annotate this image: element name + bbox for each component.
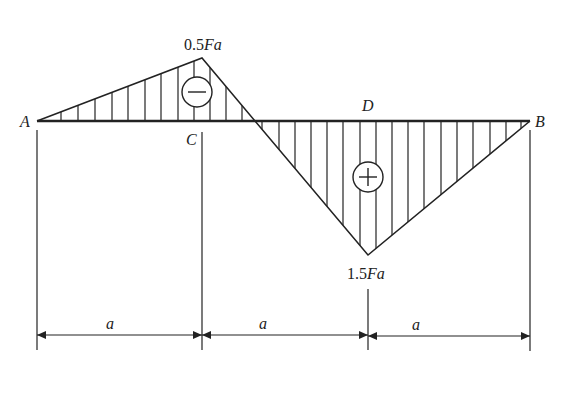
moment-diagram: A C D B 0.5Fa 1.5Fa a a a <box>0 0 561 395</box>
positive-region-hatching <box>262 120 521 260</box>
negative-region-outline <box>37 58 255 121</box>
dimension-label-3: a <box>412 316 420 333</box>
point-label-d: D <box>361 97 374 114</box>
minus-sign-icon <box>182 77 212 107</box>
plus-sign-icon <box>353 162 383 192</box>
point-label-b: B <box>535 113 545 130</box>
point-label-c: C <box>186 131 197 148</box>
dimension-label-1: a <box>106 315 114 332</box>
value-label-positive-peak: 1.5Fa <box>347 265 385 282</box>
dimension-lines <box>37 331 530 340</box>
negative-region-hatching <box>61 50 242 122</box>
dimension-label-2: a <box>259 315 267 332</box>
value-label-negative-peak: 0.5Fa <box>184 36 222 53</box>
point-label-a: A <box>19 113 30 130</box>
